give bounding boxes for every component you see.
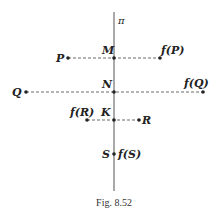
label-R: R [141,114,151,127]
point-K [112,118,116,122]
reflection-diagram: π P M f(P) Q N f(Q) f(R) K R S f(S) Fig.… [0,0,218,213]
label-fR: f(R) [69,106,94,119]
label-fP: f(P) [160,44,184,57]
label-M: M [101,44,115,57]
point-P [66,56,70,60]
label-K: K [100,106,111,119]
label-Q: Q [12,86,22,99]
label-fQ: f(Q) [183,77,209,90]
label-fS: f(S) [117,148,141,161]
point-N [112,90,116,94]
point-Q [24,90,28,94]
point-S [112,152,116,156]
figure-caption: Fig. 8.52 [96,197,132,208]
label-P: P [55,52,65,65]
point-R [137,118,141,122]
plane-label: π [117,15,125,26]
point-fQ [201,90,205,94]
label-N: N [101,78,113,91]
label-S: S [102,148,110,161]
